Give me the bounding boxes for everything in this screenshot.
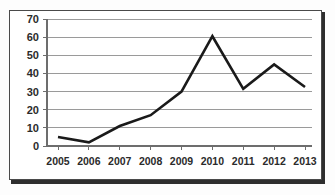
x-tick-label-2007: 2007 bbox=[108, 155, 132, 167]
x-tick-label-2009: 2009 bbox=[170, 155, 194, 167]
x-axis-tick-labels: 200520062007200820092010201120122013 bbox=[46, 155, 317, 167]
x-tick-label-2005: 2005 bbox=[46, 155, 70, 167]
x-tick-marks-group bbox=[58, 146, 305, 150]
y-tick-label-40: 40 bbox=[27, 67, 39, 79]
x-tick-label-2010: 2010 bbox=[201, 155, 225, 167]
frame-shadow-right bbox=[322, 12, 325, 184]
x-tick-label-2008: 2008 bbox=[139, 155, 163, 167]
chart-figure: 010203040506070 200520062007200820092010… bbox=[0, 0, 335, 195]
y-tick-label-60: 60 bbox=[27, 31, 39, 43]
y-axis-tick-labels: 010203040506070 bbox=[27, 13, 39, 152]
y-tick-label-20: 20 bbox=[27, 104, 39, 116]
y-tick-label-50: 50 bbox=[27, 49, 39, 61]
y-tick-label-70: 70 bbox=[27, 13, 39, 25]
y-tick-label-0: 0 bbox=[33, 140, 39, 152]
frame-shadow-bottom bbox=[11, 180, 324, 184]
gridlines-group bbox=[47, 19, 312, 128]
x-tick-label-2011: 2011 bbox=[232, 155, 255, 167]
x-tick-label-2012: 2012 bbox=[262, 155, 286, 167]
y-tick-label-10: 10 bbox=[27, 122, 39, 134]
y-tick-label-30: 30 bbox=[27, 86, 39, 98]
chart-frame: 010203040506070 200520062007200820092010… bbox=[9, 10, 322, 180]
line-chart-plot: 010203040506070 200520062007200820092010… bbox=[10, 11, 321, 179]
x-tick-label-2006: 2006 bbox=[77, 155, 101, 167]
x-tick-label-2013: 2013 bbox=[293, 155, 317, 167]
data-series-line bbox=[58, 36, 305, 142]
